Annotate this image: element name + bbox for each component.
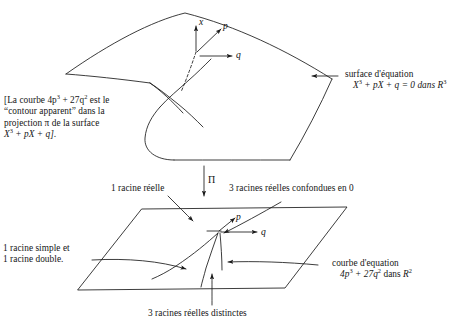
simple-double-line1: 1 racine simple et <box>3 243 103 254</box>
upper-x-axis-label: x <box>199 16 203 27</box>
curve-eq-exp3: 2 <box>409 267 412 274</box>
bracket-note-line4: X3 + pX + q]. <box>4 129 156 140</box>
three-confounded-roots-callout: 3 racines réelles confondues en 0 <box>229 183 354 194</box>
three-distinct-roots-callout: 3 racines réelles distinctes <box>148 308 247 319</box>
lower-axes <box>207 218 257 270</box>
bracket-note-l1a: [La courbe 4p <box>4 95 57 105</box>
curve-equation-callout: courbe d'equation 4p3 + 27q2 dans R2 <box>332 258 450 281</box>
bracket-note-line3: projection π de la surface <box>4 118 156 129</box>
lower-callout-leaders <box>92 196 318 305</box>
lower-plane-outline <box>78 207 347 290</box>
surface-equation-line2: X3 + pX + q = 0 dans R3 <box>345 80 451 91</box>
surface-eq-mid: + pX + q = 0 dans <box>362 80 438 90</box>
bracket-note-line1: [La courbe 4p3 + 27q2 est le <box>4 95 156 106</box>
one-real-root-callout: 1 racine réelle <box>111 183 164 194</box>
bracket-note: [La courbe 4p3 + 27q2 est le “contour ap… <box>4 95 156 141</box>
figure-artwork <box>0 0 451 332</box>
lower-p-axis-label: p <box>236 211 241 222</box>
simple-double-line2: 1 racine double. <box>3 254 103 265</box>
surface-equation-callout: surface d'équation X3 + pX + q = 0 dans … <box>345 69 451 92</box>
surface-eq-exp2: 3 <box>443 78 446 85</box>
bracket-note-l1b: + 27q <box>60 95 84 105</box>
lower-q-axis-label: q <box>261 226 266 237</box>
upper-p-axis-label: p <box>223 20 228 31</box>
bracket-note-line2: “contour apparent” dans la <box>4 106 156 117</box>
bracket-note-l4b: + pX + q]. <box>13 129 56 139</box>
upper-q-axis-label: q <box>236 49 241 60</box>
curve-eq-pre: 4p <box>340 269 349 279</box>
bracket-note-l1c: est le <box>87 95 109 105</box>
projection-pi-label: Π <box>208 174 215 185</box>
upper-axes <box>181 26 232 92</box>
curve-eq-mid: + 27q <box>353 269 378 279</box>
curve-equation-line2: 4p3 + 27q2 dans R2 <box>332 269 450 280</box>
cusp-curve <box>152 233 218 287</box>
simple-and-double-root-callout: 1 racine simple et 1 racine double. <box>3 243 103 266</box>
cusp-catastrophe-figure: x p q surface d'équation X3 + pX + q = 0… <box>0 0 451 332</box>
curve-eq-post: dans <box>381 269 403 279</box>
